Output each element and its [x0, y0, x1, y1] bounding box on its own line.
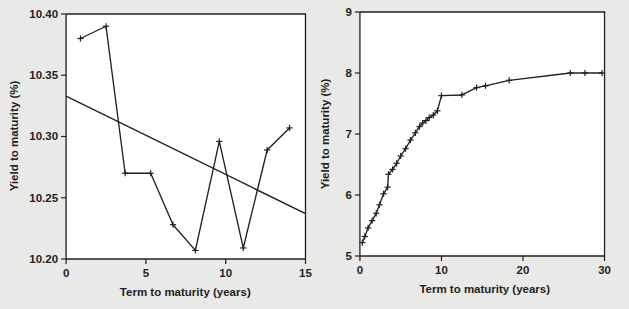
y-tick-label: 10.25: [29, 192, 58, 204]
x-tick-label: 15: [299, 267, 312, 279]
left-panel: 10.2010.2510.3010.3510.40051015 Term to …: [0, 0, 315, 309]
x-tick-label: 10: [435, 264, 448, 276]
x-tick-label: 30: [598, 264, 611, 276]
left-plot-area: [66, 14, 305, 259]
x-tick-label: 10: [219, 267, 232, 279]
y-tick-label: 10.35: [29, 69, 58, 81]
yield-curve-figure: 10.2010.2510.3010.3510.40051015 Term to …: [0, 0, 629, 309]
y-tick-label: 5: [345, 250, 352, 262]
x-tick-label: 0: [356, 264, 362, 276]
x-tick-label: 20: [516, 264, 529, 276]
x-tick-label: 5: [143, 267, 150, 279]
left-x-axis-title: Term to maturity (years): [120, 286, 251, 298]
y-tick-label: 10.20: [29, 253, 58, 265]
y-tick-label: 10.30: [29, 131, 58, 143]
right-panel: 567890102030 Term to maturity (years) Yi…: [315, 0, 629, 309]
right-x-axis-title: Term to maturity (years): [419, 283, 550, 295]
right-plot-area: [359, 12, 604, 256]
y-tick-label: 6: [345, 189, 351, 201]
y-tick-label: 7: [345, 128, 351, 140]
x-tick-label: 0: [63, 267, 69, 279]
left-chart: 10.2010.2510.3010.3510.40051015 Term to …: [0, 0, 315, 309]
y-tick-label: 9: [345, 6, 351, 18]
y-tick-label: 8: [345, 67, 352, 79]
left-y-axis-title: Yield to maturity (%): [8, 80, 20, 191]
y-tick-label: 10.40: [29, 8, 58, 20]
right-chart: 567890102030 Term to maturity (years) Yi…: [315, 0, 629, 309]
right-y-axis-title: Yield to maturity (%): [318, 78, 330, 189]
